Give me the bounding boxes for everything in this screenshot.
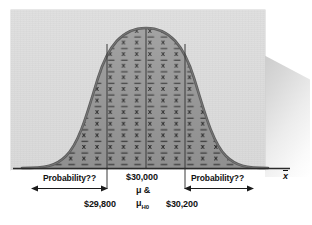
- figure-container: x: [0, 0, 312, 225]
- lower-bound-value-label: $29,800: [84, 199, 116, 209]
- x-bar-glyph: x: [283, 171, 288, 181]
- right-tail-arrow: [184, 186, 254, 192]
- mu-h0-sub-zero: 0: [146, 204, 149, 210]
- mu-ampersand-label: μ &: [136, 185, 150, 195]
- left-tail-probability-label: Probability??: [43, 173, 96, 183]
- right-tail-probability-label: Probability??: [191, 173, 244, 183]
- x-bar-axis-label: x: [283, 171, 288, 181]
- center-value-label: $30,000: [126, 172, 158, 182]
- left-tail-arrow: [31, 186, 108, 192]
- mu-h0-label: μH0: [136, 198, 149, 210]
- upper-bound-value-label: $30,200: [166, 199, 198, 209]
- normal-curve-chart: x: [0, 0, 312, 225]
